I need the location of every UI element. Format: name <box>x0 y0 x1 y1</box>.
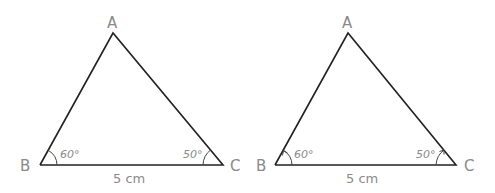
base-length-label: 5 cm <box>346 171 378 186</box>
vertex-label-c: C <box>230 157 240 175</box>
vertex-label-a: A <box>107 14 118 32</box>
angle-label-c: 50° <box>416 148 436 161</box>
triangle-edges <box>40 33 223 165</box>
angle-label-c: 50° <box>183 148 203 161</box>
arrowhead-icon <box>283 151 288 156</box>
angle-arc-c <box>436 150 444 165</box>
triangle-right: A B C 60° 50° 5 cm <box>256 14 474 186</box>
angle-label-b: 60° <box>294 148 314 161</box>
angle-arc-b <box>284 151 293 166</box>
triangle-left: A B C 60° 50° 5 cm <box>20 14 240 186</box>
base-length-label: 5 cm <box>113 171 145 186</box>
triangle-edges <box>275 33 456 165</box>
vertex-label-c: C <box>464 157 474 175</box>
vertex-label-b: B <box>20 157 30 175</box>
vertex-label-a: A <box>342 14 353 32</box>
triangle-diagrams: A B C 60° 50° 5 cm A B C 60° 50° 5 cm <box>0 0 495 193</box>
vertex-label-b: B <box>256 157 266 175</box>
angle-arc-c <box>203 150 211 165</box>
angle-label-b: 60° <box>60 148 80 161</box>
angle-arc-b <box>49 151 58 166</box>
